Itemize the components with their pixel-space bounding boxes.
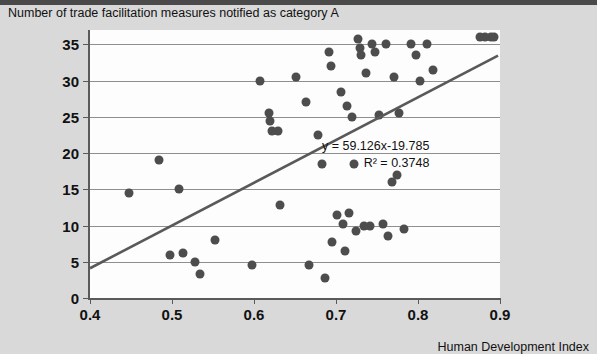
x-axis-tick-label: 0.4 bbox=[80, 306, 101, 323]
regression-annotation: y = 59.126x-19.785 R² = 0.3748 bbox=[322, 138, 429, 172]
top-border-band bbox=[0, 0, 597, 5]
x-axis-tick-mark bbox=[418, 298, 419, 304]
y-axis-tick-label: 0 bbox=[71, 290, 79, 307]
y-axis-tick-mark bbox=[83, 262, 89, 263]
regression-r-squared: R² = 0.3748 bbox=[322, 155, 429, 172]
y-axis-title: Number of trade facilitation measures no… bbox=[8, 6, 339, 20]
plot-panel: 051015202530350.40.50.60.70.80.9 y = 59.… bbox=[88, 30, 500, 300]
y-axis-tick-mark bbox=[83, 44, 89, 45]
x-axis-tick-label: 0.5 bbox=[162, 306, 183, 323]
y-axis-tick-label: 25 bbox=[62, 108, 79, 125]
y-axis-tick-label: 15 bbox=[62, 181, 79, 198]
x-axis-title: Human Development Index bbox=[438, 340, 589, 354]
y-axis-tick-label: 35 bbox=[62, 36, 79, 53]
y-axis-tick-mark bbox=[83, 117, 89, 118]
chart-figure: 051015202530350.40.50.60.70.80.9 y = 59.… bbox=[0, 0, 597, 358]
y-axis-tick-mark bbox=[83, 189, 89, 190]
x-axis-tick-mark bbox=[254, 298, 255, 304]
x-axis-tick-mark bbox=[172, 298, 173, 304]
x-axis-tick-mark bbox=[90, 298, 91, 304]
x-axis-tick-label: 0.8 bbox=[408, 306, 429, 323]
y-axis-tick-mark bbox=[83, 226, 89, 227]
y-axis-tick-label: 5 bbox=[71, 253, 79, 270]
x-axis-tick-label: 0.6 bbox=[244, 306, 265, 323]
y-axis-tick-mark bbox=[83, 81, 89, 82]
y-axis-tick-mark bbox=[83, 298, 89, 299]
y-axis-tick-label: 30 bbox=[62, 72, 79, 89]
bottom-border-band bbox=[0, 354, 597, 358]
y-axis-tick-mark bbox=[83, 153, 89, 154]
x-axis-tick-label: 0.7 bbox=[326, 306, 347, 323]
regression-equation: y = 59.126x-19.785 bbox=[322, 138, 429, 155]
x-axis-tick-mark bbox=[336, 298, 337, 304]
x-axis-tick-label: 0.9 bbox=[490, 306, 511, 323]
x-axis-tick-mark bbox=[500, 298, 501, 304]
y-axis-tick-label: 10 bbox=[62, 217, 79, 234]
trendline bbox=[90, 30, 500, 298]
y-axis-tick-label: 20 bbox=[62, 145, 79, 162]
